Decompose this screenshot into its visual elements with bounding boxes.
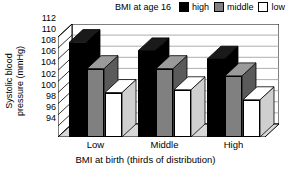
legend-item-high: high <box>179 2 209 12</box>
y-axis-title-wrap: Systolic blood pressure (mmHg) <box>0 18 30 143</box>
legend-label-high: high <box>192 2 209 12</box>
y-axis-tick-label: 108 <box>41 36 56 45</box>
y-axis-tick-label: 106 <box>41 47 56 56</box>
legend-item-middle: middle <box>214 2 254 12</box>
legend-title: BMI at age 16 <box>115 2 171 12</box>
y-axis-tick-label: 100 <box>41 80 56 89</box>
x-axis-tick-label: Low <box>87 139 104 150</box>
x-axis-tick-labels: LowMiddleHigh <box>58 139 279 153</box>
legend-swatch-low-icon <box>258 2 268 12</box>
x-axis-title: BMI at birth (thirds of distribution) <box>0 154 291 165</box>
y-axis-tick-label: 102 <box>41 69 56 78</box>
chart-root: BMI at age 16 high middle low Systolic b… <box>0 0 291 170</box>
y-axis-tick-label: 104 <box>41 58 56 67</box>
y-axis-tick-label: 98 <box>46 91 56 100</box>
y-axis-tick-label: 110 <box>42 25 56 34</box>
chart-legend: BMI at age 16 high middle low <box>0 2 291 12</box>
legend-label-low: low <box>271 2 285 12</box>
legend-item-low: low <box>258 2 285 12</box>
plot-area <box>58 24 279 137</box>
legend-swatch-middle-icon <box>214 2 224 12</box>
y-axis-title-line2: pressure (mmHg) <box>15 45 26 115</box>
y-axis-title: Systolic blood pressure (mmHg) <box>4 45 26 115</box>
legend-swatch-high-icon <box>179 2 189 12</box>
y-axis-tick-labels: 949698100102104106108110112 <box>28 18 56 131</box>
y-axis-tick-label: 112 <box>42 14 56 23</box>
bar-series-container <box>58 24 279 137</box>
y-axis-tick-label: 94 <box>46 114 56 123</box>
legend-label-middle: middle <box>227 2 254 12</box>
x-axis-tick-label: Middle <box>151 139 179 150</box>
bar-low-high[interactable] <box>243 100 260 137</box>
bar-front-face <box>243 100 260 137</box>
y-axis-title-line1: Systolic blood <box>4 45 15 115</box>
x-axis-tick-label: High <box>224 139 244 150</box>
y-axis-tick-label: 96 <box>46 102 56 111</box>
